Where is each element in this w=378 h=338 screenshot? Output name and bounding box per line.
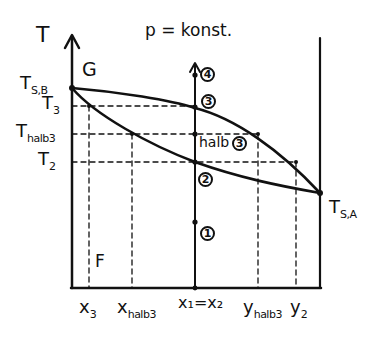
liquid-region-label: F — [95, 253, 105, 270]
state-2-badge: 2 — [198, 172, 213, 187]
tick-x1-x2: x₁=x₂ — [178, 295, 223, 311]
point-y2-curve — [294, 160, 298, 164]
tick-xhalb3: xhalb3 — [117, 298, 156, 316]
state-halb3-badge: 3 — [232, 136, 247, 151]
point-x3-curve — [87, 104, 91, 108]
pressure-label: p = konst. — [145, 22, 232, 39]
state-1-badge: 1 — [200, 226, 215, 241]
point-4 — [192, 72, 197, 77]
point-1 — [192, 219, 197, 224]
state-halb3-prefix: halb — [199, 135, 229, 149]
point-3 — [192, 104, 197, 109]
point-halb3 — [192, 131, 197, 136]
state-3-badge: 3 — [201, 94, 216, 109]
point-tsa — [317, 190, 323, 196]
phase-diagram: p = konst. T G F TS,B T3 Thalb3 T2 x3 xh… — [0, 0, 378, 338]
point-2 — [192, 159, 197, 164]
gas-region-label: G — [82, 60, 97, 79]
point-yhalb3-curve — [256, 132, 260, 136]
point-x1 — [193, 286, 198, 291]
tick-yhalb3: yhalb3 — [243, 298, 282, 316]
point-tsb — [69, 85, 75, 91]
diagram-canvas — [0, 0, 378, 338]
point-xhalb3-curve — [130, 132, 134, 136]
tick-t2: T2 — [38, 150, 56, 168]
tick-thalb3: Thalb3 — [16, 122, 55, 140]
tick-y2: y2 — [290, 298, 307, 316]
tick-t3: T3 — [42, 94, 60, 112]
tick-tsa: TS,A — [329, 198, 357, 216]
tick-x3: x3 — [79, 298, 96, 316]
state-4-badge: 4 — [200, 67, 215, 82]
t-axis-label: T — [36, 24, 49, 46]
tick-tsb: TS,B — [20, 74, 48, 92]
